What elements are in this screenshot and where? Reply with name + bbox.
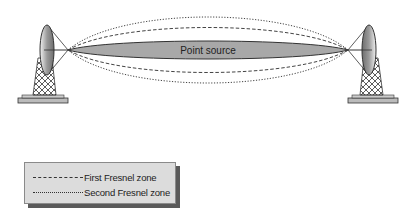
- legend-label: Second Fresnel zone: [84, 187, 170, 198]
- right-antenna-base: [348, 98, 398, 103]
- point-source-label: Point source: [180, 45, 236, 56]
- dotted-line-swatch: [33, 192, 83, 193]
- right-antenna-base-top: [352, 95, 394, 98]
- left-antenna-base: [18, 98, 68, 103]
- left-antenna-base-top: [22, 95, 64, 98]
- dashed-line-swatch: [33, 177, 83, 178]
- legend: First Fresnel zone Second Fresnel zone: [24, 162, 176, 204]
- legend-item-second-fresnel-zone: Second Fresnel zone: [33, 185, 170, 199]
- legend-item-first-fresnel-zone: First Fresnel zone: [33, 170, 156, 184]
- fresnel-zone-diagram: Point source: [0, 0, 411, 160]
- right-antenna: [348, 25, 398, 103]
- legend-label: First Fresnel zone: [84, 172, 156, 183]
- left-antenna: [18, 25, 68, 103]
